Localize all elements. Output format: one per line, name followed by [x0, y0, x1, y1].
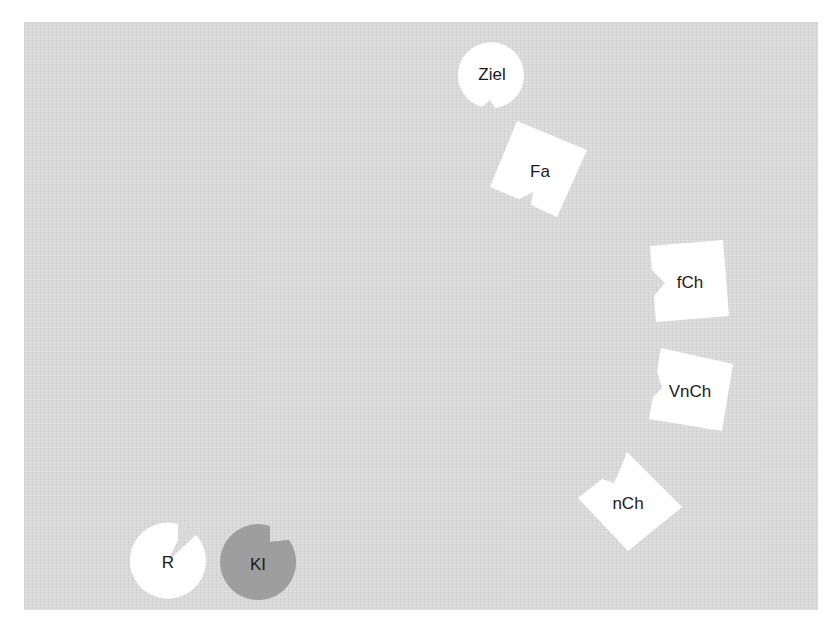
piece-ki[interactable]: KI — [220, 524, 296, 600]
piece-r[interactable]: R — [130, 523, 206, 599]
piece-label: Fa — [530, 162, 550, 181]
piece-fa[interactable]: Fa — [490, 121, 587, 217]
piece-label: KI — [250, 555, 266, 574]
piece-label: nCh — [612, 494, 643, 513]
piece-ziel[interactable]: Ziel — [458, 42, 524, 108]
piece-label: Ziel — [478, 65, 505, 84]
piece-label: fCh — [677, 273, 703, 292]
piece-vnch[interactable]: VnCh — [649, 348, 733, 431]
piece-label: VnCh — [669, 382, 712, 401]
piece-label: R — [162, 553, 174, 572]
piece-fch[interactable]: fCh — [650, 240, 729, 322]
piece-nch[interactable]: nCh — [578, 452, 682, 551]
